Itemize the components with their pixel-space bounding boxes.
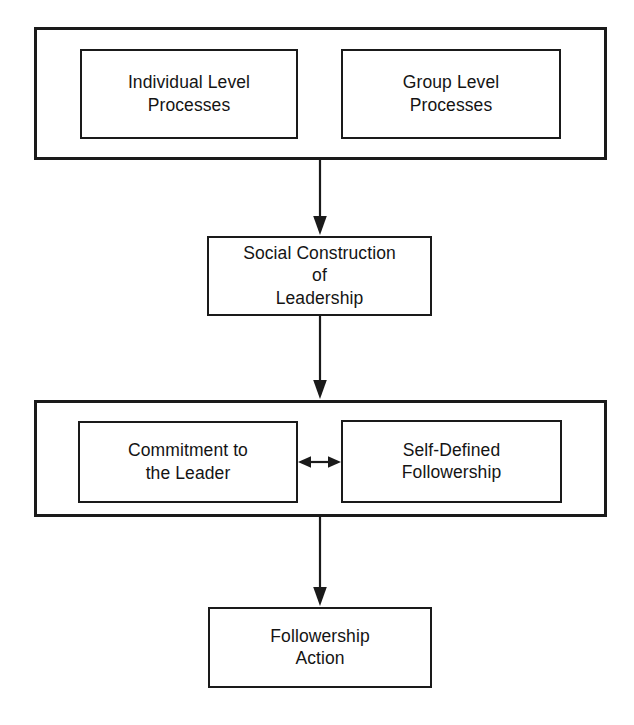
- box-group-level-processes-label: Group Level Processes: [343, 71, 559, 117]
- arrow-level2-to-level3: [309, 316, 331, 400]
- arrow-level3-to-level4: [309, 517, 331, 607]
- diagram-canvas: Individual Level Processes Group Level P…: [0, 0, 634, 725]
- box-commitment-to-the-leader-label: Commitment to the Leader: [80, 439, 296, 485]
- box-individual-level-processes: Individual Level Processes: [80, 49, 298, 139]
- box-followership-action-label: Followership Action: [210, 625, 430, 671]
- box-social-construction-of-leadership-label: Social Construction of Leadership: [209, 242, 430, 309]
- box-individual-level-processes-label: Individual Level Processes: [82, 71, 296, 117]
- box-group-level-processes: Group Level Processes: [341, 49, 561, 139]
- arrow-commitment-to-followership: [298, 451, 341, 473]
- box-social-construction-of-leadership: Social Construction of Leadership: [207, 236, 432, 316]
- box-self-defined-followership-label: Self-Defined Followership: [343, 439, 560, 485]
- arrow-level1-to-level2: [309, 160, 331, 236]
- box-self-defined-followership: Self-Defined Followership: [341, 420, 562, 503]
- box-followership-action: Followership Action: [208, 607, 432, 688]
- box-commitment-to-the-leader: Commitment to the Leader: [78, 421, 298, 503]
